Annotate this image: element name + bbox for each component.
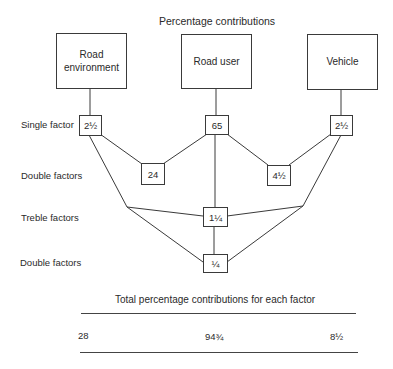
value-box-single-road-environment: 2½ xyxy=(79,115,102,136)
value-text: 65 xyxy=(212,120,223,131)
factor-label-road-user: Road user xyxy=(193,55,239,69)
value-box-double-env-vehicle: ¼ xyxy=(203,254,228,273)
value-text: 1¼ xyxy=(209,212,222,223)
value-box-double-env-user: 24 xyxy=(141,163,165,185)
value-box-double-user-vehicle: 4½ xyxy=(267,165,291,186)
value-box-treble-all: 1¼ xyxy=(203,207,228,227)
factor-box-road-user: Road user xyxy=(181,34,252,89)
value-text: 2½ xyxy=(84,120,97,131)
totals-title: Total percentage contributions for each … xyxy=(110,294,320,305)
total-vehicle: 8½ xyxy=(330,331,343,342)
value-box-single-road-user: 65 xyxy=(205,115,229,135)
totals-top-rule xyxy=(81,313,356,314)
row-label-single-factor: Single factor xyxy=(21,119,74,130)
factor-label-road-environment-line1: Road xyxy=(80,48,104,62)
row-label-double-factors-2: Double factors xyxy=(20,257,81,268)
factor-box-road-environment: Road environment xyxy=(56,33,127,89)
row-label-treble-factors: Treble factors xyxy=(21,212,79,223)
factor-label-vehicle: Vehicle xyxy=(326,55,358,69)
total-road-user: 94¾ xyxy=(205,331,224,342)
value-box-single-vehicle: 2½ xyxy=(330,115,353,136)
row-label-double-factors: Double factors xyxy=(21,170,82,181)
factor-box-vehicle: Vehicle xyxy=(307,34,378,90)
value-text: ¼ xyxy=(212,258,220,269)
value-text: 24 xyxy=(148,169,159,180)
diagram-title: Percentage contributions xyxy=(150,15,284,27)
totals-bottom-rule xyxy=(80,352,358,353)
value-text: 4½ xyxy=(272,170,285,181)
value-text: 2½ xyxy=(335,120,348,131)
factor-label-road-environment-line2: environment xyxy=(64,61,119,75)
total-road-environment: 28 xyxy=(78,330,89,341)
